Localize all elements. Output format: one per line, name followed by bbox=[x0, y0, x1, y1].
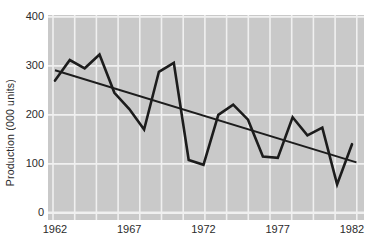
x-tick-label: 1977 bbox=[266, 223, 290, 235]
x-tick-label: 1967 bbox=[117, 223, 141, 235]
y-axis-title: Production (000 units) bbox=[4, 79, 16, 186]
production-chart-figure: Production (000 units) 01002003004001962… bbox=[0, 0, 376, 246]
x-tick-label: 1982 bbox=[340, 223, 364, 235]
production-line-chart: 010020030040019621967197219771982 bbox=[0, 0, 376, 246]
x-tick-label: 1962 bbox=[43, 223, 67, 235]
y-tick-label: 100 bbox=[26, 157, 44, 169]
x-tick-label: 1972 bbox=[191, 223, 215, 235]
y-tick-label: 0 bbox=[38, 206, 44, 218]
y-tick-label: 200 bbox=[26, 108, 44, 120]
y-axis-title-wrap: Production (000 units) bbox=[2, 28, 18, 238]
y-tick-label: 400 bbox=[26, 10, 44, 22]
plot-area bbox=[48, 15, 364, 220]
y-tick-label: 300 bbox=[26, 59, 44, 71]
